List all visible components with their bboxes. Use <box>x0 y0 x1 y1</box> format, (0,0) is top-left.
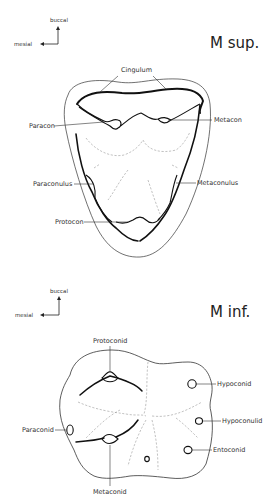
upper-ridge-line <box>77 104 200 128</box>
lower-buccal-label: buccal <box>50 288 68 294</box>
upper-dashed-4 <box>172 165 178 168</box>
upper-mesial-label: mesial <box>14 41 33 47</box>
small-cusp <box>145 456 150 461</box>
lower-groove-3 <box>86 410 120 438</box>
label-metaconulus: Metaconulus <box>197 179 239 187</box>
lower-groove-5 <box>176 418 198 438</box>
upper-paraconulus-bulge <box>86 175 112 222</box>
label-hypoconid: Hypoconid <box>217 380 251 388</box>
cingulum-leader-left <box>100 76 118 92</box>
lower-groove-2 <box>78 402 146 416</box>
upper-right-flank <box>140 105 200 241</box>
upper-title: M sup. <box>210 34 259 52</box>
label-entoconid: Entoconid <box>213 446 245 454</box>
upper-left-flank <box>76 134 138 241</box>
upper-molar-section: buccal mesial M sup. <box>14 17 259 257</box>
label-protocon: Protocon <box>55 218 84 226</box>
upper-crown-rim <box>77 89 203 113</box>
protoconid-crest <box>80 376 142 395</box>
lower-orientation-indicator: buccal mesial <box>15 288 68 318</box>
lower-groove-4 <box>152 402 202 416</box>
paracon-leader <box>54 122 104 126</box>
label-protoconid: Protoconid <box>93 337 127 345</box>
label-metacon: Metacon <box>214 116 242 124</box>
label-cingulum: Cingulum <box>121 66 152 74</box>
label-paraconid: Paraconid <box>22 426 54 434</box>
lower-outline <box>60 350 213 478</box>
upper-buccal-label: buccal <box>50 17 68 23</box>
label-metaconid: Metaconid <box>93 488 127 496</box>
upper-dashed-2 <box>148 180 160 214</box>
label-paracon: Paracon <box>29 122 55 130</box>
lower-groove-7 <box>152 420 158 470</box>
upper-ridge-line-3 <box>158 119 171 123</box>
cingulum-leader-right <box>153 76 166 89</box>
upper-dashed-3 <box>94 164 100 168</box>
hypoconulid-cusp <box>196 418 203 424</box>
paraconid-cusp <box>67 425 73 435</box>
hypoconid-cusp <box>188 380 196 388</box>
label-hypoconulid: Hypoconulid <box>222 417 262 425</box>
lower-mesial-label: mesial <box>15 312 34 318</box>
upper-orientation-indicator: buccal mesial <box>14 17 68 47</box>
label-paraconulus: Paraconulus <box>33 180 73 188</box>
lower-molar-section: buccal mesial M inf. <box>15 288 262 496</box>
lower-groove-6 <box>128 420 146 466</box>
metaconid-crest <box>76 420 138 442</box>
upper-dashed-1 <box>108 170 128 200</box>
molar-diagram: buccal mesial M sup. <box>0 0 276 503</box>
upper-outer-contour <box>64 79 210 257</box>
lower-groove-1 <box>144 362 148 414</box>
upper-dashed-trigon <box>86 132 190 156</box>
metaconid-cusp <box>102 435 118 444</box>
lower-title: M inf. <box>210 303 250 321</box>
entoconid-cusp <box>184 446 192 453</box>
